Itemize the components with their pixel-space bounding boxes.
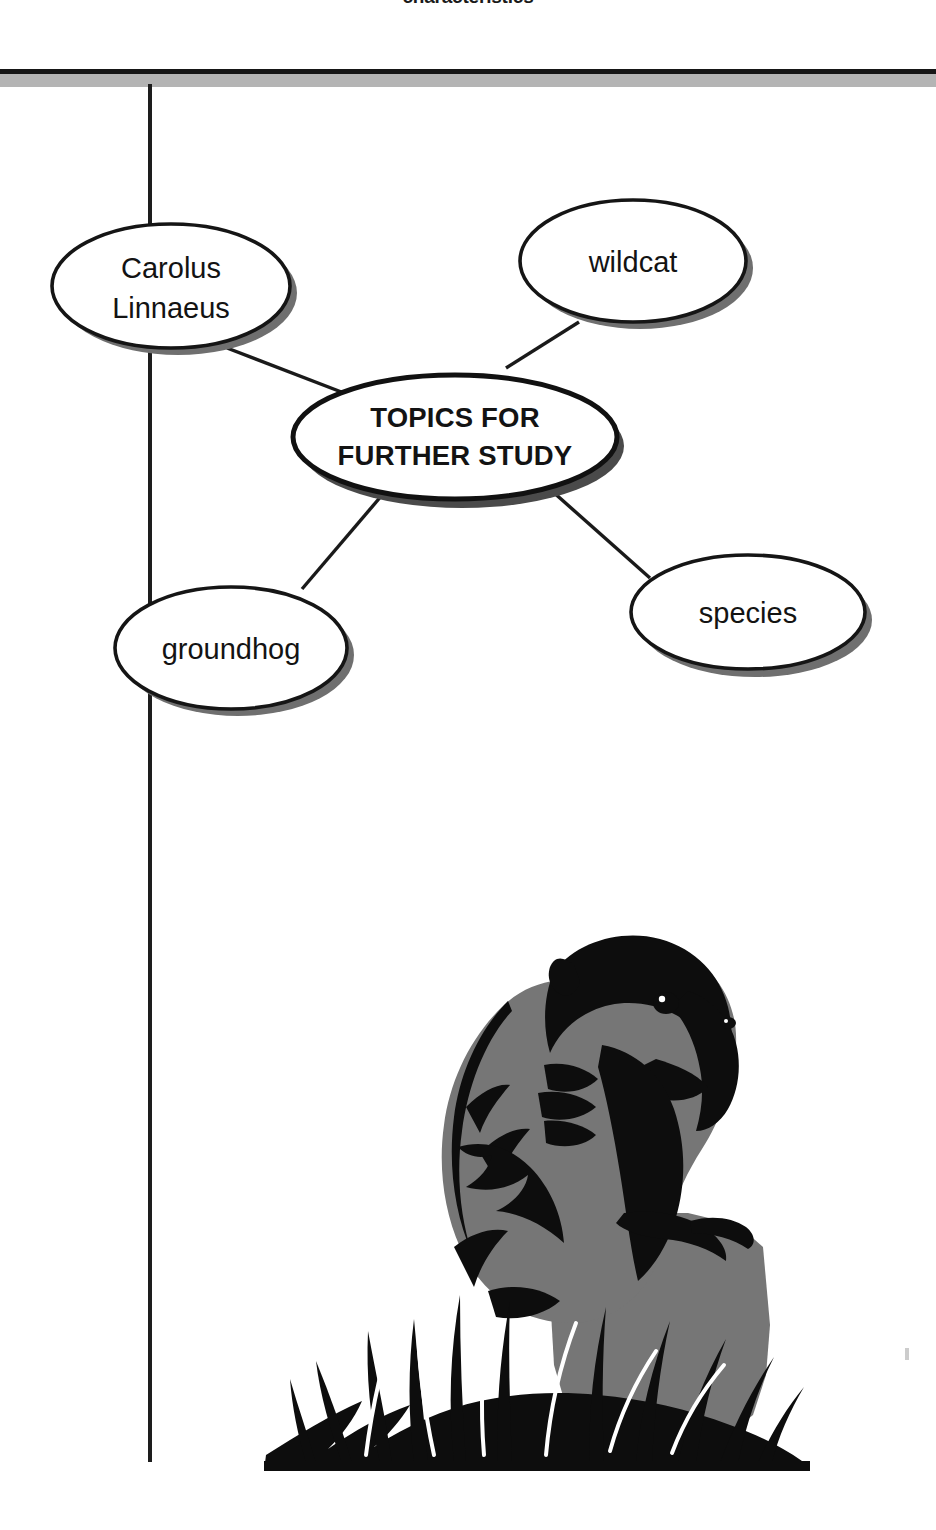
node-label-line1: wildcat: [588, 246, 678, 278]
groundhog-eye: [653, 992, 679, 1014]
node-ellipse: [52, 224, 290, 348]
node-label-line1: species: [699, 597, 797, 629]
node-species[interactable]: species: [631, 555, 872, 677]
edge-groundhog-to-center: [302, 494, 383, 589]
groundhog-illustration: [258, 895, 818, 1480]
node-carolus-linnaeus[interactable]: Carolus Linnaeus: [52, 224, 297, 355]
node-label-line2: Linnaeus: [112, 292, 230, 324]
concept-map: Carolus Linnaeus wildcat TOPICS FOR FURT…: [0, 0, 936, 760]
margin-print-mark: [905, 1348, 909, 1360]
node-topics-for-further-study[interactable]: TOPICS FOR FURTHER STUDY: [293, 375, 624, 508]
page-canvas: characteristics Carolus Linnaeus: [0, 0, 936, 1530]
edge-wildcat-to-center: [506, 322, 579, 368]
node-label-line1: groundhog: [162, 633, 301, 665]
center-node-label-line2: FURTHER STUDY: [338, 440, 573, 471]
edge-species-to-center: [552, 491, 650, 578]
node-groundhog[interactable]: groundhog: [115, 587, 354, 716]
node-label-line1: Carolus: [121, 252, 221, 284]
node-wildcat[interactable]: wildcat: [520, 200, 753, 329]
edge-carolus-linnaeus-to-center: [227, 348, 344, 393]
center-node-label-line1: TOPICS FOR: [370, 402, 540, 433]
node-ellipse: [293, 375, 617, 499]
